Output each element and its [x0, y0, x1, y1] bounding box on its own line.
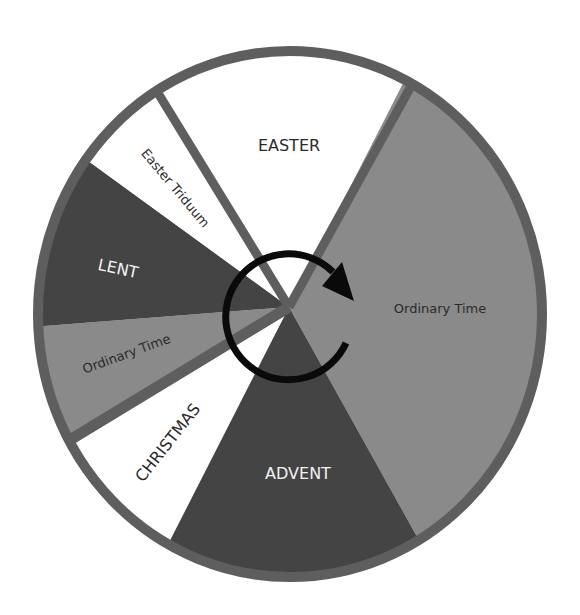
label-ordinary-time-right: Ordinary Time	[394, 301, 486, 316]
liturgical-year-wheel: EASTER Ordinary Time ADVENT CHRISTMAS Or…	[0, 0, 580, 615]
label-easter: EASTER	[258, 136, 320, 155]
label-advent: ADVENT	[265, 464, 331, 483]
